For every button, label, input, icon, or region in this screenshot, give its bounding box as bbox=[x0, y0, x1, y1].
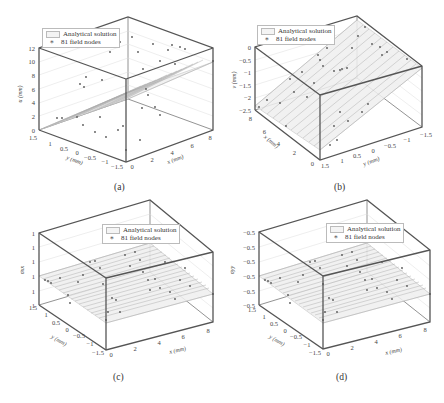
svg-text:0.5: 0.5 bbox=[353, 152, 361, 159]
svg-text:0.5: 0.5 bbox=[52, 319, 60, 326]
svg-text:12: 12 bbox=[29, 45, 36, 52]
svg-text:−0.5: −0.5 bbox=[243, 244, 255, 251]
svg-text:1: 1 bbox=[48, 140, 51, 147]
svg-text:6: 6 bbox=[181, 333, 185, 340]
svg-text:1: 1 bbox=[44, 311, 47, 318]
svg-text:0.5: 0.5 bbox=[60, 145, 68, 152]
caption-d: (d) bbox=[336, 372, 347, 382]
legend-a: Analytical solution ∗81 field nodes bbox=[42, 28, 120, 48]
svg-text:1: 1 bbox=[262, 313, 265, 320]
svg-text:6: 6 bbox=[32, 86, 36, 93]
svg-text:1: 1 bbox=[32, 288, 35, 295]
y-axis-label-b: y (mm) bbox=[361, 155, 380, 168]
node-marker-icon: ∗ bbox=[330, 233, 342, 241]
panel-c: 1 1 1 1 1 1 1.5 1 0.5 0 −0.5 −1 −1.5 0 2… bbox=[0, 200, 222, 403]
surface-swatch-icon bbox=[46, 31, 60, 38]
svg-text:0: 0 bbox=[32, 127, 35, 134]
svg-text:1.5: 1.5 bbox=[321, 162, 329, 169]
svg-text:1: 1 bbox=[32, 230, 35, 237]
x-axis-label-d: x (mm) bbox=[384, 346, 403, 357]
y-ticks-a: 1.5 1 0.5 0 −0.5 −1 −1.5 bbox=[29, 134, 123, 170]
node-marker-icon: ∗ bbox=[46, 38, 58, 46]
x-axis-label-a: x (mm) bbox=[165, 153, 184, 166]
y-ticks-b: 1.5 1 0.5 0 −0.5 −1 −1.5 bbox=[321, 131, 432, 169]
svg-text:0.5: 0.5 bbox=[270, 320, 278, 327]
legend-d: Analytical solution ∗81 field nodes bbox=[326, 223, 404, 243]
z-ticks-c: 1 1 1 1 1 1 bbox=[32, 230, 35, 309]
svg-text:−0.5: −0.5 bbox=[73, 332, 85, 339]
svg-text:−2.5: −2.5 bbox=[239, 107, 251, 114]
caption-c: (c) bbox=[113, 372, 124, 382]
svg-text:1.5: 1.5 bbox=[29, 304, 37, 311]
svg-text:−1: −1 bbox=[87, 340, 94, 347]
svg-text:−1: −1 bbox=[244, 69, 251, 76]
svg-text:10: 10 bbox=[29, 58, 36, 65]
panel-b: 0 −0.5 −1 −1.5 −2 −2.5 8 6 4 2 0 1.5 1 0… bbox=[222, 0, 444, 200]
svg-text:−1.5: −1.5 bbox=[239, 82, 251, 89]
svg-text:0: 0 bbox=[326, 350, 329, 357]
z-ticks-b: 0 −0.5 −1 −1.5 −2 −2.5 bbox=[239, 44, 251, 114]
svg-text:−0.5: −0.5 bbox=[384, 142, 396, 149]
svg-text:0: 0 bbox=[248, 44, 251, 51]
panel-d: −0.5 −0.5 −0.5 −0.5 −0.5 −0.5 1.5 1 0.5 … bbox=[222, 200, 444, 403]
legend-c: Analytical solution ∗81 field nodes bbox=[102, 224, 180, 244]
svg-text:−1: −1 bbox=[404, 136, 411, 143]
svg-text:0: 0 bbox=[75, 149, 78, 156]
z-axis-label-d: σyy bbox=[229, 266, 235, 275]
y-axis-label-d: y (mm) bbox=[267, 333, 286, 348]
z-ticks-a: 12 10 8 6 4 2 0 bbox=[29, 45, 36, 134]
x-ticks-a: 0 2 4 6 8 bbox=[130, 134, 211, 170]
svg-text:2: 2 bbox=[32, 113, 35, 120]
y-axis-label-a: y (mm) bbox=[64, 154, 83, 167]
panel-a: 12 10 8 6 4 2 0 1.5 1 0.5 0 −0.5 −1 −1.5… bbox=[0, 0, 222, 200]
node-marker-icon: ∗ bbox=[106, 234, 118, 242]
x-ticks-c: 0 2 4 6 8 bbox=[109, 327, 209, 358]
svg-text:8: 8 bbox=[423, 326, 426, 333]
svg-text:4: 4 bbox=[170, 149, 174, 156]
svg-text:−1.5: −1.5 bbox=[309, 349, 321, 356]
svg-text:−1: −1 bbox=[304, 341, 311, 348]
svg-text:1: 1 bbox=[32, 244, 35, 251]
svg-text:4: 4 bbox=[32, 99, 36, 106]
svg-text:−1: −1 bbox=[102, 158, 109, 165]
svg-text:1: 1 bbox=[32, 258, 35, 265]
surface-swatch-icon bbox=[261, 28, 275, 35]
svg-text:4: 4 bbox=[157, 339, 161, 346]
svg-text:8: 8 bbox=[206, 327, 209, 334]
caption-a: (a) bbox=[114, 182, 125, 192]
svg-text:0: 0 bbox=[130, 163, 133, 170]
svg-text:0: 0 bbox=[109, 351, 112, 358]
svg-text:0: 0 bbox=[371, 147, 374, 154]
x-axis-label-c: x (mm) bbox=[168, 345, 187, 356]
x-axis-label-b: x (mm) bbox=[262, 133, 280, 150]
svg-text:1.5: 1.5 bbox=[29, 134, 37, 141]
svg-text:−0.5: −0.5 bbox=[290, 333, 302, 340]
surface-swatch-icon bbox=[330, 226, 344, 233]
svg-text:8: 8 bbox=[249, 115, 252, 122]
svg-text:−0.5: −0.5 bbox=[243, 288, 255, 295]
svg-text:1.5: 1.5 bbox=[248, 306, 256, 313]
svg-text:6: 6 bbox=[190, 142, 194, 149]
svg-text:0: 0 bbox=[283, 327, 286, 334]
svg-text:4: 4 bbox=[374, 338, 378, 345]
svg-text:0: 0 bbox=[311, 160, 314, 167]
surface-swatch-icon bbox=[106, 227, 120, 234]
svg-text:−0.5: −0.5 bbox=[243, 273, 255, 280]
legend-b: Analytical solution ∗81 field nodes bbox=[257, 25, 335, 45]
z-ticks-d: −0.5 −0.5 −0.5 −0.5 −0.5 −0.5 bbox=[243, 229, 255, 309]
svg-text:−1.5: −1.5 bbox=[420, 131, 432, 138]
x-ticks-d: 0 2 4 6 8 bbox=[326, 326, 426, 357]
svg-text:−0.5: −0.5 bbox=[84, 154, 96, 161]
svg-text:2: 2 bbox=[150, 156, 153, 163]
svg-text:6: 6 bbox=[398, 332, 402, 339]
svg-text:−0.5: −0.5 bbox=[243, 229, 255, 236]
svg-text:−0.5: −0.5 bbox=[243, 258, 255, 265]
node-marker-icon: ∗ bbox=[261, 35, 273, 43]
svg-text:2: 2 bbox=[133, 345, 136, 352]
svg-text:8: 8 bbox=[32, 72, 35, 79]
y-axis-label-c: y (mm) bbox=[49, 333, 68, 348]
z-axis-label-c: σxx bbox=[19, 266, 25, 275]
svg-text:2: 2 bbox=[350, 344, 353, 351]
svg-text:0: 0 bbox=[65, 326, 68, 333]
svg-text:−1.5: −1.5 bbox=[92, 349, 104, 356]
